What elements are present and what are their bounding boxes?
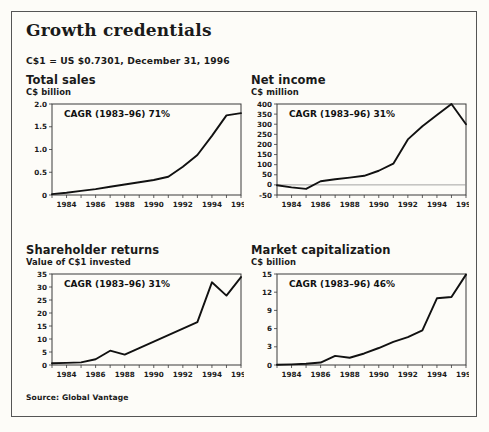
svg-text:1992: 1992: [398, 370, 418, 379]
chart-plot-area: 0510152025303519841986198819901992199419…: [26, 270, 244, 382]
svg-text:15: 15: [37, 322, 47, 331]
svg-text:1.0: 1.0: [34, 145, 47, 154]
svg-text:20: 20: [37, 309, 47, 318]
svg-text:1988: 1988: [115, 200, 135, 209]
svg-text:1996: 1996: [231, 200, 244, 209]
svg-text:1988: 1988: [340, 200, 360, 209]
svg-text:1990: 1990: [369, 200, 389, 209]
svg-text:1994: 1994: [202, 370, 222, 379]
svg-text:0.5: 0.5: [34, 168, 47, 177]
chart-title: Shareholder returns: [26, 244, 244, 256]
svg-text:35: 35: [37, 270, 47, 279]
chart-plot-area: 00.51.01.52.0198419861988199019921994199…: [26, 100, 244, 212]
svg-text:0: 0: [267, 180, 272, 189]
svg-text:15: 15: [262, 270, 272, 279]
source-note: Source: Global Vantage: [26, 393, 129, 402]
svg-text:1986: 1986: [311, 200, 331, 209]
svg-text:1992: 1992: [398, 200, 418, 209]
chart-axis-unit: C$ billion: [26, 87, 244, 97]
chart-panel-market-capitalization: Market capitalization C$ billion 0369121…: [251, 244, 469, 384]
svg-text:150: 150: [257, 150, 272, 159]
chart-plot-area: -500501001502002503003504001984198619881…: [251, 100, 469, 212]
chart-plot-area: 036912151984198619881990199219941996CAGR…: [251, 270, 469, 382]
page-title: Growth credentials: [26, 20, 212, 40]
chart-panel-net-income: Net income C$ million -50050100150200250…: [251, 74, 469, 214]
svg-text:1990: 1990: [369, 370, 389, 379]
svg-text:2.0: 2.0: [34, 100, 47, 109]
svg-text:1996: 1996: [456, 370, 469, 379]
svg-text:1992: 1992: [173, 370, 193, 379]
exhibit-container: Growth credentials C$1 = US $0.7301, Dec…: [11, 11, 477, 417]
exchange-rate-note: C$1 = US $0.7301, December 31, 1996: [26, 55, 230, 66]
svg-text:0: 0: [267, 361, 272, 370]
svg-text:50: 50: [262, 170, 272, 179]
chart-axis-unit: C$ billion: [251, 257, 469, 267]
svg-text:1994: 1994: [202, 200, 222, 209]
svg-text:CAGR (1983–96) 71%: CAGR (1983–96) 71%: [64, 109, 170, 119]
svg-text:12: 12: [262, 288, 272, 297]
svg-text:1984: 1984: [57, 200, 77, 209]
svg-text:1996: 1996: [456, 200, 469, 209]
svg-text:300: 300: [257, 120, 272, 129]
svg-text:25: 25: [37, 296, 47, 305]
svg-text:30: 30: [37, 283, 47, 292]
svg-text:CAGR (1983–96) 31%: CAGR (1983–96) 31%: [64, 279, 170, 289]
chart-axis-unit: Value of C$1 invested: [26, 257, 244, 267]
svg-text:1984: 1984: [282, 370, 302, 379]
svg-text:250: 250: [257, 130, 272, 139]
svg-text:10: 10: [37, 335, 47, 344]
chart-title: Market capitalization: [251, 244, 469, 256]
svg-text:100: 100: [257, 160, 272, 169]
svg-text:CAGR (1983–96) 31%: CAGR (1983–96) 31%: [289, 109, 395, 119]
svg-text:1996: 1996: [231, 370, 244, 379]
svg-text:1994: 1994: [427, 370, 447, 379]
svg-text:1988: 1988: [115, 370, 135, 379]
svg-text:1.5: 1.5: [34, 122, 47, 131]
svg-text:1994: 1994: [427, 200, 447, 209]
svg-text:9: 9: [267, 306, 272, 315]
svg-text:0: 0: [42, 361, 47, 370]
svg-text:1984: 1984: [57, 370, 77, 379]
svg-text:3: 3: [267, 342, 272, 351]
svg-text:6: 6: [267, 324, 272, 333]
svg-text:1990: 1990: [144, 370, 164, 379]
svg-text:200: 200: [257, 140, 272, 149]
svg-text:CAGR (1983–96) 46%: CAGR (1983–96) 46%: [289, 279, 395, 289]
svg-text:1988: 1988: [340, 370, 360, 379]
chart-axis-unit: C$ million: [251, 87, 469, 97]
svg-text:1986: 1986: [86, 370, 106, 379]
svg-text:350: 350: [257, 110, 272, 119]
svg-text:400: 400: [257, 100, 272, 109]
svg-text:1992: 1992: [173, 200, 193, 209]
chart-title: Total sales: [26, 74, 244, 86]
svg-text:1986: 1986: [311, 370, 331, 379]
svg-text:1990: 1990: [144, 200, 164, 209]
svg-text:5: 5: [42, 348, 47, 357]
chart-panel-total-sales: Total sales C$ billion 00.51.01.52.01984…: [26, 74, 244, 214]
svg-text:0: 0: [42, 191, 47, 200]
chart-panel-shareholder-returns: Shareholder returns Value of C$1 investe…: [26, 244, 244, 384]
svg-text:-50: -50: [259, 191, 272, 200]
chart-title: Net income: [251, 74, 469, 86]
svg-text:1986: 1986: [86, 200, 106, 209]
svg-text:1984: 1984: [282, 200, 302, 209]
